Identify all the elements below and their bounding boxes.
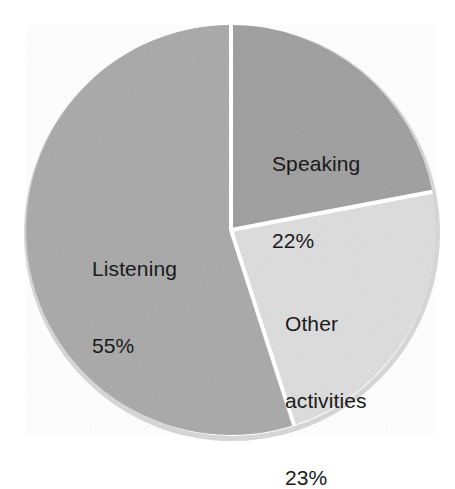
pie-label-listening: Listening 55%: [92, 205, 177, 410]
pie-label-other-activities-value: 23%: [285, 465, 367, 489]
pie-label-other-activities: Other activities 23%: [285, 260, 367, 489]
pie-label-other-activities-name-line1: Other: [285, 311, 367, 337]
pie-label-listening-value: 55%: [92, 333, 177, 359]
pie-label-other-activities-name-line2: activities: [285, 388, 367, 414]
pie-label-speaking-value: 22%: [272, 228, 360, 254]
pie-label-listening-name: Listening: [92, 256, 177, 282]
pie-label-speaking-name: Speaking: [272, 151, 360, 177]
